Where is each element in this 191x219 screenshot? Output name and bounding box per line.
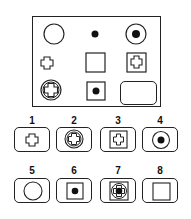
dot-icon <box>90 29 100 39</box>
puzzle-matrix <box>32 16 161 107</box>
option-label-6: 6 <box>56 165 92 176</box>
square-icon <box>85 52 107 74</box>
square-with-dot-icon <box>86 81 106 101</box>
circle-with-dot-icon <box>124 22 148 46</box>
option-1[interactable] <box>14 127 50 152</box>
cross-icon <box>40 56 54 70</box>
option-label-5: 5 <box>14 165 50 176</box>
square-with-cross-icon <box>109 130 129 150</box>
option-label-2: 2 <box>56 115 92 126</box>
option-label-3: 3 <box>100 115 136 126</box>
option-2[interactable] <box>56 127 92 152</box>
circle-with-cross-icon <box>64 129 84 149</box>
answer-blank <box>120 81 157 105</box>
option-5[interactable] <box>14 178 50 203</box>
option-8[interactable] <box>142 178 178 203</box>
square-circle-cross-dot-icon <box>109 181 129 201</box>
option-7[interactable] <box>100 178 136 203</box>
option-label-8: 8 <box>142 165 178 176</box>
square-icon <box>152 182 171 201</box>
square-with-dot-icon <box>66 182 84 200</box>
circle-with-dot-icon <box>151 130 171 150</box>
circle-icon <box>23 181 43 201</box>
option-label-1: 1 <box>14 115 50 126</box>
cross-icon <box>25 133 39 147</box>
square-with-cross-icon <box>126 52 148 74</box>
option-3[interactable] <box>100 127 136 152</box>
circle-icon <box>41 21 67 47</box>
option-4[interactable] <box>142 127 178 152</box>
option-label-7: 7 <box>100 165 136 176</box>
circle-with-cross-icon <box>39 78 63 102</box>
option-6[interactable] <box>56 178 92 203</box>
option-label-4: 4 <box>142 115 178 126</box>
